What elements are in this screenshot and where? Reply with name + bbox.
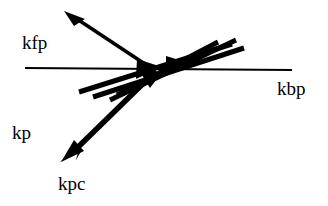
label-kfp: kfp [22, 33, 47, 52]
canvas-background [0, 0, 328, 206]
label-kpc: kpc [58, 174, 85, 193]
label-kp: kp [12, 123, 31, 142]
vector-canvas [0, 0, 328, 206]
label-kbp: kbp [277, 79, 306, 98]
vector-diagram: kfp kbp kp kpc [0, 0, 328, 206]
